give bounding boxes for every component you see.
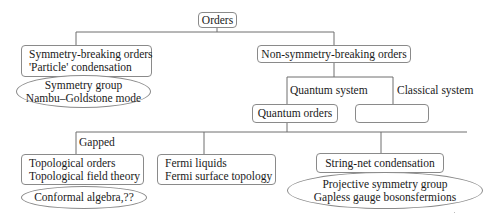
nambu-goldstone-label: Nambu–Goldstone mode <box>17 92 150 105</box>
quantum-system-label: Quantum system <box>290 84 368 97</box>
symmetry-breaking-box: Symmetry-breaking orders 'Particle' cond… <box>21 45 152 77</box>
gapped-label: Gapped <box>79 136 115 149</box>
fermi-liquids-label: Fermi liquids <box>165 157 275 170</box>
classical-empty-box <box>355 104 429 123</box>
fermi-surface-topology-label: Fermi surface topology <box>165 170 275 183</box>
topological-orders-box: Topological orders Topological field the… <box>21 154 144 185</box>
topological-field-theory-label: Topological field theory <box>29 170 143 183</box>
non-symmetry-breaking-label: Non-symmetry-breaking orders <box>258 48 410 61</box>
orders-hierarchy-diagram: Orders Symmetry-breaking orders 'Particl… <box>0 0 495 220</box>
quantum-orders-label: Quantum orders <box>253 107 337 120</box>
symmetry-breaking-title: Symmetry-breaking orders <box>29 48 151 61</box>
particle-condensation-label: 'Particle' condensation <box>29 61 151 74</box>
root-orders-box: Orders <box>198 12 237 28</box>
symmetry-group-label: Symmetry group <box>17 79 150 92</box>
string-net-ellipse: Projective symmetry group Gapless gauge … <box>287 172 483 209</box>
topological-ellipse: Conformal algebra,?? <box>21 186 147 209</box>
fermi-liquids-box: Fermi liquids Fermi surface topology <box>157 154 276 185</box>
stray-dot <box>454 212 455 213</box>
quantum-orders-box: Quantum orders <box>252 104 338 123</box>
conformal-algebra-label: Conformal algebra,?? <box>22 191 146 204</box>
gapless-gauge-label: Gapless gauge bosonsfermions <box>288 191 482 204</box>
classical-system-label: Classical system <box>397 84 473 97</box>
topological-orders-label: Topological orders <box>29 157 143 170</box>
string-net-label: String-net condensation <box>317 157 443 170</box>
string-net-box: String-net condensation <box>316 153 444 173</box>
symmetry-breaking-ellipse: Symmetry group Nambu–Goldstone mode <box>16 75 151 108</box>
projective-symmetry-group-label: Projective symmetry group <box>288 178 482 191</box>
non-symmetry-breaking-box: Non-symmetry-breaking orders <box>257 45 411 63</box>
root-orders-label: Orders <box>199 14 236 27</box>
